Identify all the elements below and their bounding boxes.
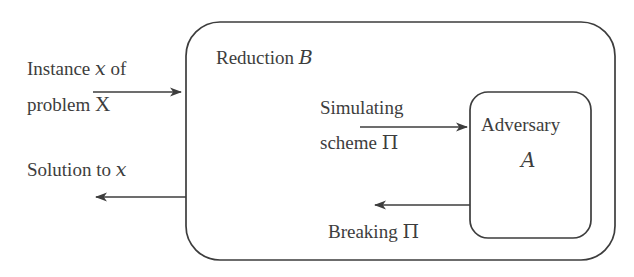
solution-label: Solution to x [27,160,126,179]
reduction-box-label: Reduction B [216,48,313,67]
diagram-vector-layer [0,0,634,277]
problem-label-prefix: problem [27,94,95,115]
reduction-label-prefix: Reduction [216,47,299,68]
simulating-label-line2: scheme Π [320,133,398,152]
instance-label-suffix: of [106,58,127,79]
adversary-box-label: Adversary [481,115,560,134]
instance-label-line2: problem X [27,94,110,115]
adversary-symbol-A: A [521,150,536,170]
scheme-label-prefix: scheme [320,132,382,153]
breaking-symbol-pi: Π [402,220,419,242]
problem-variable-X: X [95,92,110,116]
scheme-symbol-pi: Π [382,131,399,153]
instance-label-prefix: Instance [27,58,95,79]
instance-label-line1: Instance x of [27,59,126,78]
instance-variable-x: x [95,57,106,79]
solution-label-prefix: Solution to [27,159,116,180]
reduction-diagram: Instance x of problem X Solution to x Re… [0,0,634,277]
reduction-symbol-B: B [299,46,313,68]
breaking-label: Breaking Π [328,222,419,241]
simulating-label-line1: Simulating [320,98,403,117]
solution-variable-x: x [116,158,127,180]
breaking-label-prefix: Breaking [328,221,402,242]
